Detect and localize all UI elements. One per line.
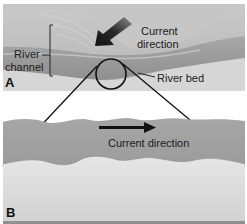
label-river-channel-line1: River xyxy=(14,48,40,60)
panel-b-letter: B xyxy=(6,205,15,220)
sand-ripples xyxy=(3,156,245,221)
label-current-direction-b: Current direction xyxy=(108,137,189,149)
label-river-channel-line2: channel xyxy=(5,61,44,73)
label-river-bed: River bed xyxy=(157,72,204,84)
river-diagram: Current direction River channel River be… xyxy=(0,0,247,224)
label-current-direction-a-line2: direction xyxy=(137,38,179,50)
panel-a-letter: A xyxy=(5,75,14,90)
label-current-direction-a-line1: Current xyxy=(141,25,178,37)
panel-b xyxy=(3,118,245,224)
diagram-graphic xyxy=(0,0,247,224)
